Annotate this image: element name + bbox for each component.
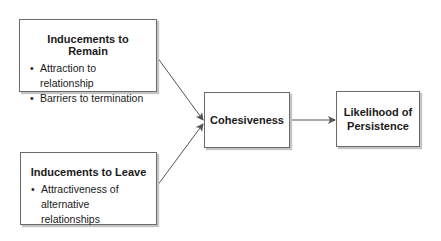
inducements-to-leave-title: Inducements to Leave bbox=[29, 166, 148, 178]
cohesiveness-title: Cohesiveness bbox=[210, 113, 284, 127]
likelihood-of-persistence-title: Likelihood of Persistence bbox=[344, 105, 412, 133]
bullet-icon: • bbox=[31, 182, 35, 197]
inducements-to-remain-box: Inducements to Remain • Attraction to re… bbox=[19, 19, 157, 92]
arrow-remain-to-cohesiveness bbox=[157, 57, 203, 120]
inducements-to-remain-list: • Attraction to relationship • Barriers … bbox=[28, 61, 148, 106]
inducements-to-remain-title: Inducements to Remain bbox=[28, 33, 148, 57]
inducements-to-leave-list: • Attractiveness of alternative relation… bbox=[29, 182, 148, 227]
list-item: • Attraction to relationship bbox=[28, 61, 148, 91]
bullet-icon: • bbox=[30, 61, 34, 76]
list-item: • Barriers to termination bbox=[28, 91, 148, 106]
bullet-icon: • bbox=[30, 91, 34, 106]
cohesiveness-box: Cohesiveness bbox=[204, 92, 290, 148]
arrow-leave-to-cohesiveness bbox=[157, 124, 203, 186]
list-item: • Attractiveness of alternative relation… bbox=[29, 182, 148, 227]
likelihood-of-persistence-box: Likelihood of Persistence bbox=[336, 91, 420, 147]
inducements-to-leave-box: Inducements to Leave • Attractiveness of… bbox=[20, 152, 157, 225]
